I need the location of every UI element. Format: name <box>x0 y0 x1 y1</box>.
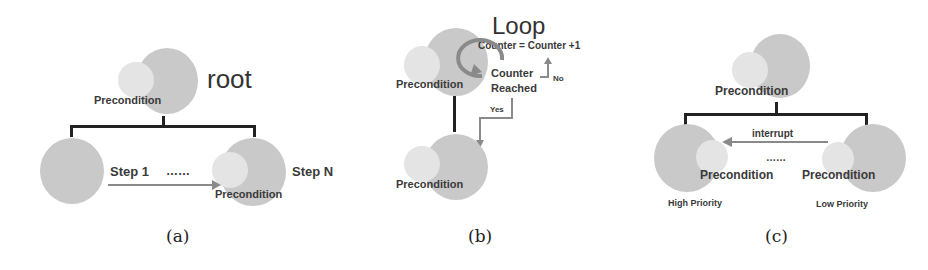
panel-a: root Precondition Step 1 …… Step N Preco… <box>0 0 300 270</box>
child-precondition-label: Precondition <box>396 178 463 190</box>
high-priority-label: High Priority <box>668 198 722 208</box>
caption-c: (c) <box>765 226 788 246</box>
panel-b: Loop Counter = Counter +1 Counter Reache… <box>300 0 620 270</box>
ellipsis-c: …… <box>766 152 786 163</box>
interrupt-arrow-icon <box>600 0 928 270</box>
low-precondition-label: Precondition <box>802 168 875 182</box>
low-priority-label: Low Priority <box>816 199 868 209</box>
child-precondition <box>404 146 440 182</box>
caption-b: (b) <box>468 226 492 246</box>
high-precondition-label: Precondition <box>700 168 773 182</box>
caption-a: (a) <box>166 226 189 246</box>
loop-connector <box>453 96 456 132</box>
step-arrow-icon <box>0 0 300 270</box>
panel-c: Precondition interrupt …… Precondition P… <box>600 0 928 270</box>
